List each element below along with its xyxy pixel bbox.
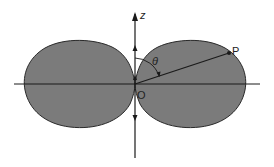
point-P-label: P <box>232 45 239 57</box>
downward-arrow-icon <box>133 115 138 121</box>
z-axis-label: z <box>139 9 146 21</box>
dipole-pattern-diagram: z P θ O <box>0 0 274 167</box>
z-axis-arrowhead-icon <box>132 12 138 21</box>
origin-label: O <box>137 89 146 101</box>
upward-arrow-icon <box>133 45 138 51</box>
theta-label: θ <box>152 55 158 67</box>
point-P-dot <box>227 51 231 55</box>
